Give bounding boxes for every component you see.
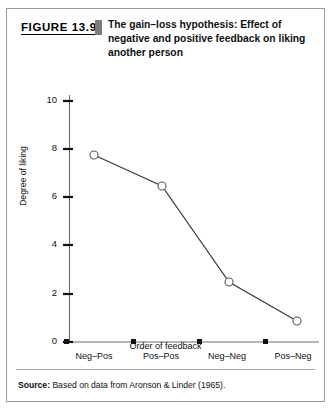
y-tick-label-4: 4 [31,238,57,249]
data-point-marker [158,182,166,190]
data-point-markers [90,151,301,325]
data-point-marker [90,151,98,159]
source-divider [16,369,315,370]
figure-header: FIGURE 13.9 The gain–loss hypothesis: Ef… [7,9,324,67]
y-tick-label-6: 6 [31,190,57,201]
x-tick-label-pos-pos: Pos–Pos [125,351,197,361]
x-axis-title: Order of feedback [7,341,324,351]
y-tick-label-10: 10 [31,94,57,105]
chart-svg [7,67,326,367]
source-note: Source: Based on data from Aronson & Lin… [18,379,314,391]
chart-plot-area: 10 8 6 4 2 0 Degree of liking Neg–Pos Po… [7,67,324,367]
x-tick-label-pos-neg: Pos–Neg [257,351,329,361]
figure-number-label: FIGURE 13.9 [21,21,97,35]
data-point-marker [293,317,301,325]
figure-title: The gain–loss hypothesis: Effect of nega… [108,18,316,61]
y-tick-label-2: 2 [31,287,57,298]
figure-frame: FIGURE 13.9 The gain–loss hypothesis: Ef… [6,8,325,402]
source-text: Based on data from Aronson & Linder (196… [50,380,225,390]
y-tick-label-8: 8 [31,142,57,153]
data-point-marker [225,278,233,286]
header-separator-bar [95,20,102,35]
y-axis-ticks [63,101,73,342]
data-series-line [94,155,297,321]
source-label: Source: [18,380,50,390]
y-axis-title: Degree of liking [18,129,28,223]
x-tick-label-neg-neg: Neg–Neg [191,351,263,361]
x-tick-label-neg-pos: Neg–Pos [58,351,130,361]
